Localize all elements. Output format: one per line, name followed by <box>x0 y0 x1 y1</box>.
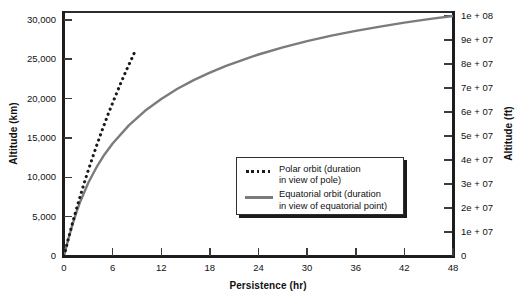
chart-legend: Polar orbit (duration in view of pole) E… <box>236 157 404 215</box>
y-tick-label-left-0: 0 <box>8 250 56 261</box>
legend-item-equatorial-orbit: Equatorial orbit (duration in view of eq… <box>244 189 398 211</box>
x-tick-label-6: 36 <box>341 262 371 273</box>
y-tick-label-right-1: 1e + 07 <box>461 226 517 237</box>
x-tick-label-5: 30 <box>292 262 322 273</box>
legend-equatorial-line1: Equatorial orbit (duration <box>279 189 381 199</box>
x-tick-label-0: 0 <box>49 262 79 273</box>
y-tick-label-right-2: 2e + 07 <box>461 202 517 213</box>
legend-equatorial-line2: in view of equatorial point) <box>279 201 387 211</box>
legend-label-equatorial-orbit: Equatorial orbit (duration in view of eq… <box>279 189 387 211</box>
legend-label-polar-orbit: Polar orbit (duration in view of pole) <box>279 164 361 186</box>
plot-curves <box>64 12 453 256</box>
x-tick-label-8: 48 <box>438 262 468 273</box>
x-tick-label-2: 12 <box>146 262 176 273</box>
x-tick-label-1: 6 <box>98 262 128 273</box>
y-tick-label-right-0: 0 <box>461 250 517 261</box>
y-tick-label-left-1: 5,000 <box>8 211 56 222</box>
x-tick-label-3: 18 <box>195 262 225 273</box>
polar-orbit-curve <box>64 49 136 256</box>
y-tick-label-right-10: 1e + 08 <box>461 10 517 21</box>
altitude-persistence-chart: 05,00010,00015,00020,00025,00030,00001e … <box>0 0 524 299</box>
x-axis-title: Persistence (hr) <box>148 280 388 291</box>
x-tick-label-4: 24 <box>244 262 274 273</box>
legend-item-polar-orbit: Polar orbit (duration in view of pole) <box>244 164 398 186</box>
x-tick-label-7: 42 <box>389 262 419 273</box>
y-tick-label-right-9: 9e + 07 <box>461 34 517 45</box>
y-tick-label-left-6: 30,000 <box>8 14 56 25</box>
legend-polar-line2: in view of pole) <box>279 175 341 185</box>
solid-line-swatch-icon <box>244 191 274 203</box>
legend-polar-line1: Polar orbit (duration <box>279 164 361 174</box>
y-tick-label-right-8: 8e + 07 <box>461 58 517 69</box>
y-tick-label-left-5: 25,000 <box>8 53 56 64</box>
y-axis-left-title: Altitude (km) <box>8 74 19 194</box>
y-axis-right-title: Altitude (ft) <box>503 74 514 194</box>
dotted-line-swatch-icon <box>244 166 274 178</box>
equatorial-orbit-curve <box>64 16 453 256</box>
